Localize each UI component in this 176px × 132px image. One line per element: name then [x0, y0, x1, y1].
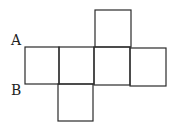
net-square-row-1 [25, 47, 59, 84]
vertex-label-a: A [11, 33, 21, 47]
net-square-row-2 [59, 47, 94, 84]
net-square-row-4 [130, 48, 166, 86]
net-square-row-3 [94, 47, 130, 85]
net-square-bottom [58, 84, 93, 121]
cube-net-diagram [0, 0, 176, 132]
vertex-label-b: B [11, 83, 21, 97]
net-square-top [95, 10, 131, 47]
